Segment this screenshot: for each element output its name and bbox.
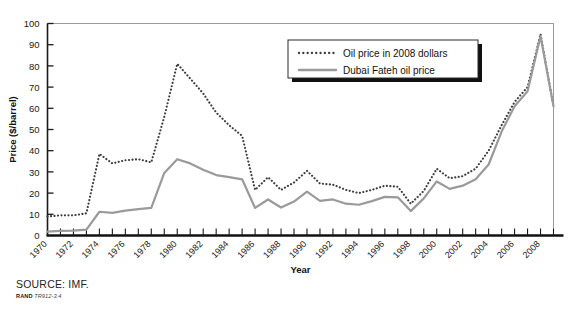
rand-id: TR912-3.4: [34, 293, 61, 299]
source-block: SOURCE: IMF. RAND TR912-3.4: [16, 278, 89, 299]
y-axis-title: Price ($/barrel): [7, 96, 18, 163]
y-tick-label: 20: [29, 188, 40, 199]
rand-label: RAND: [16, 293, 33, 299]
x-axis-title: Year: [290, 264, 310, 275]
y-tick-label: 10: [29, 209, 40, 220]
y-tick-label: 70: [29, 82, 40, 93]
y-tick-label: 80: [29, 61, 40, 72]
legend-label-1: Oil price in 2008 dollars: [343, 48, 448, 59]
source-note: SOURCE: IMF.: [16, 278, 89, 290]
y-tick-label: 40: [29, 145, 40, 156]
legend-label-2: Dubai Fateh oil price: [343, 65, 435, 76]
oil-price-chart: 0102030405060708090100 19701972197419761…: [0, 0, 579, 317]
chart-legend: Oil price in 2008 dollarsDubai Fateh oil…: [288, 40, 482, 82]
y-tick-label: 0: [34, 230, 39, 241]
y-tick-label: 100: [24, 18, 40, 29]
y-tick-label: 90: [29, 39, 40, 50]
y-tick-label: 60: [29, 103, 40, 114]
y-tick-label: 50: [29, 124, 40, 135]
y-tick-label: 30: [29, 167, 40, 178]
rand-figure-id: RAND TR912-3.4: [16, 293, 89, 299]
